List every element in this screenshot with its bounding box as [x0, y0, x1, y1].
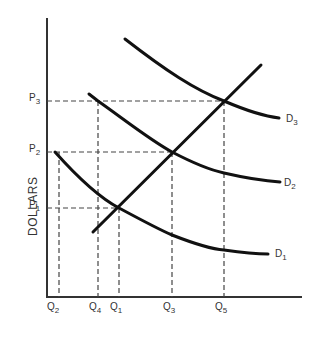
demand-curve-d1 [55, 152, 268, 254]
d3-label: D3 [286, 113, 298, 127]
q4-label: Q4 [89, 301, 102, 315]
d1-label: D1 [275, 248, 287, 262]
d2-label: D2 [284, 177, 296, 191]
supply-demand-chart: DOLLARS P3 P2 P1 Q2 Q4 Q1 Q3 Q5 D1 D2 D3 [0, 0, 314, 337]
q5-label: Q5 [215, 301, 228, 315]
q3-label: Q3 [163, 301, 176, 315]
q1-label: Q1 [110, 301, 123, 315]
p2-label: P2 [29, 143, 41, 157]
q2-label: Q2 [47, 301, 60, 315]
demand-curve-d3 [125, 39, 279, 118]
dashed-guides [47, 101, 224, 297]
p3-label: P3 [29, 92, 41, 106]
demand-curve-d2 [89, 94, 280, 182]
